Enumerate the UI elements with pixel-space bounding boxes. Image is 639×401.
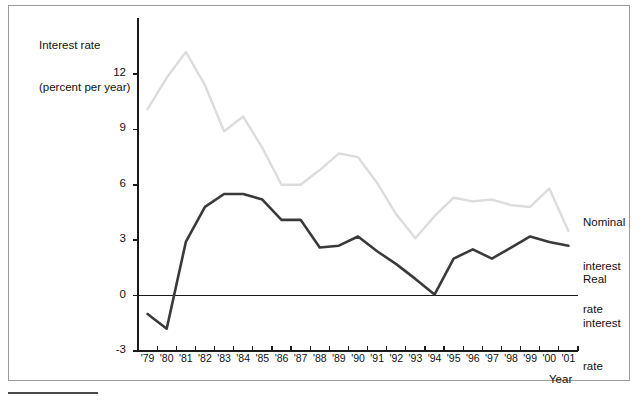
series-group: [148, 52, 569, 329]
axes-group: [133, 18, 578, 351]
series-line-real: [148, 194, 569, 329]
series-line-nominal: [148, 52, 569, 238]
chart-figure: Interest rate (percent per year) Year No…: [0, 0, 639, 401]
plot-area: [0, 0, 639, 401]
footer-rule: [8, 392, 98, 394]
